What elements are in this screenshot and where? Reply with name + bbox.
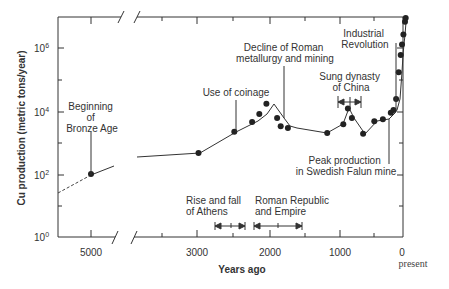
annotation-athens: Rise and fall of Athens xyxy=(186,195,244,217)
svg-text:102: 102 xyxy=(34,169,49,181)
annotation-industrial-revolution: Industrial Revolution xyxy=(341,28,388,50)
data-point xyxy=(274,115,280,121)
y-tick-labels: 106 104 102 100 xyxy=(34,42,49,243)
data-point xyxy=(263,101,269,107)
copper-production-chart: 106 104 102 100 Cu production (metric to… xyxy=(0,0,449,289)
data-point xyxy=(285,125,291,131)
svg-text:100: 100 xyxy=(34,231,49,243)
svg-text:0: 0 xyxy=(399,247,405,258)
data-point xyxy=(278,123,284,129)
svg-text:1000: 1000 xyxy=(329,247,352,258)
data-point xyxy=(371,118,377,124)
annotation-coinage: Use of coinage xyxy=(203,87,270,98)
data-point xyxy=(403,15,409,21)
data-point xyxy=(399,41,405,47)
svg-text:5000: 5000 xyxy=(80,247,103,258)
data-point xyxy=(396,69,402,75)
data-point xyxy=(196,150,202,156)
data-point xyxy=(249,119,255,125)
annotation-roman-republic: Roman Republic and Empire xyxy=(255,195,332,217)
extrapolated-segment xyxy=(58,175,91,193)
annotation-roman-decline: Decline of Roman metallurgy and mining xyxy=(236,42,334,64)
data-point xyxy=(349,115,355,121)
annotation-falun-mine: Peak production in Swedish Falun mine xyxy=(296,155,397,177)
data-point xyxy=(380,116,386,122)
data-point xyxy=(400,31,406,37)
annotation-sung-dynasty: Sung dynasty of China xyxy=(319,71,382,93)
data-point xyxy=(340,121,346,127)
svg-text:106: 106 xyxy=(34,42,49,54)
data-point xyxy=(256,111,262,117)
y-axis-title: Cu production (metric tons/year) xyxy=(16,50,27,205)
data-point xyxy=(360,131,366,137)
annotation-bronze-age: Beginning of Bronze Age xyxy=(66,101,118,134)
data-point xyxy=(324,130,330,136)
svg-text:3000: 3000 xyxy=(186,247,209,258)
annotation-labels: Beginning of Bronze Age Use of coinage D… xyxy=(66,28,397,217)
data-point xyxy=(398,52,404,58)
svg-text:104: 104 xyxy=(34,106,49,118)
svg-text:2000: 2000 xyxy=(259,247,282,258)
x-axis-title: Years ago xyxy=(218,264,265,275)
present-label: present xyxy=(399,258,428,269)
